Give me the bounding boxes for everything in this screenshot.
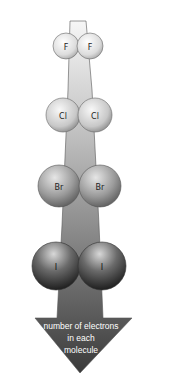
arrow-caption-line-1: number of electrons bbox=[43, 321, 118, 331]
atom-label: F bbox=[88, 43, 93, 52]
atom-label: F bbox=[64, 43, 69, 52]
arrow-caption-line-2: in each bbox=[67, 333, 95, 343]
arrow-caption-line-3: molecule bbox=[64, 345, 98, 355]
atom-label: I bbox=[101, 263, 103, 272]
atom-label: Br bbox=[55, 183, 64, 192]
atom-label: I bbox=[55, 263, 57, 272]
atom-label: Cl bbox=[59, 112, 67, 121]
atom-label: Cl bbox=[91, 112, 99, 121]
halogen-diagram: F F Cl Cl Br Br I I number of electrons … bbox=[0, 0, 184, 391]
atom-label: Br bbox=[96, 183, 105, 192]
